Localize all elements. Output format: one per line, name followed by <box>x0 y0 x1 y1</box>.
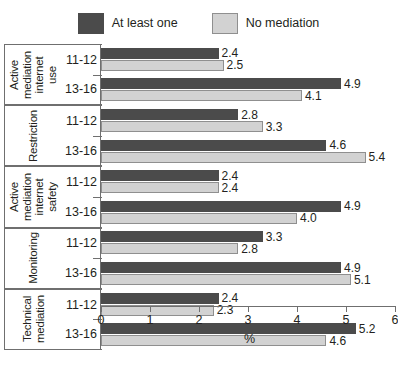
bar-no-mediation <box>101 213 297 224</box>
x-axis-tick <box>248 306 249 312</box>
group-age-labels: 11-1213-16 <box>61 229 102 288</box>
group-title: Restriction <box>5 106 61 165</box>
x-axis-tick-label: 1 <box>147 313 154 327</box>
bar-no-mediation <box>101 274 351 285</box>
age-label: 11-12 <box>61 106 102 136</box>
bars-area: 2.42.54.94.12.83.34.65.42.42.44.94.03.32… <box>101 44 397 350</box>
bar-row: 2.8 <box>101 109 397 120</box>
age-label: 11-12 <box>61 229 102 259</box>
bar-no-mediation <box>101 90 302 101</box>
bar-at-least-one <box>101 293 219 304</box>
x-axis-tick <box>297 306 298 312</box>
group-title: Activemediationinternetsafety <box>5 167 61 226</box>
group-title-text: Restriction <box>27 110 40 162</box>
x-axis-tick-label: 2 <box>196 313 203 327</box>
bar-at-least-one <box>101 170 219 181</box>
age-label: 13-16 <box>61 258 102 288</box>
group-title-text: Activemediationinternetsafety <box>8 173 58 221</box>
age-label: 11-12 <box>61 290 102 320</box>
group-label-panel: Activemediationinternetuse11-1213-16Rest… <box>4 44 101 350</box>
bar-at-least-one <box>101 201 341 212</box>
bar-row: 4.0 <box>101 213 397 224</box>
group-title-text: Monitoring <box>27 232 40 284</box>
bar-row: 2.5 <box>101 60 397 71</box>
age-label: 13-16 <box>61 197 102 227</box>
bar-value-label: 2.4 <box>219 181 239 195</box>
x-axis-tick-label: 0 <box>98 313 105 327</box>
group-age-labels: 11-1213-16 <box>61 45 102 104</box>
bar-at-least-one <box>101 48 219 59</box>
bar-value-label: 4.1 <box>302 89 322 103</box>
x-axis-tick <box>346 306 347 312</box>
x-axis-tick <box>150 306 151 312</box>
bar-no-mediation <box>101 182 219 193</box>
bar-row: 5.1 <box>101 274 397 285</box>
group-title-text: Activemediationinternetuse <box>8 51 58 99</box>
x-axis-tick-label: 3 <box>245 313 252 327</box>
group-title: Activemediationinternetuse <box>5 45 61 104</box>
x-axis-tick-label: 4 <box>294 313 301 327</box>
age-label: 13-16 <box>61 75 102 105</box>
group-label-monitoring: Monitoring11-1213-16 <box>5 228 102 289</box>
bar-value-label: 4.9 <box>341 199 361 213</box>
x-axis-tick-label: 6 <box>392 313 398 327</box>
bar-row: 4.9 <box>101 262 397 273</box>
legend-label-no-mediation: No mediation <box>246 17 320 30</box>
bar-value-label: 3.3 <box>263 230 283 244</box>
legend-item-at-least-one: At least one <box>78 13 178 34</box>
bar-value-label: 5.1 <box>351 273 371 287</box>
bar-value-label: 4.0 <box>297 211 317 225</box>
bar-value-label: 2.5 <box>224 58 244 72</box>
legend-label-at-least-one: At least one <box>112 17 178 30</box>
age-label: 11-12 <box>61 45 102 75</box>
bar-value-label: 3.3 <box>263 120 283 134</box>
bar-row: 5.4 <box>101 152 397 163</box>
group-title: Monitoring <box>5 229 61 288</box>
age-label: 13-16 <box>61 136 102 166</box>
group-age-labels: 11-1213-16 <box>61 106 102 165</box>
bar-row: 4.9 <box>101 78 397 89</box>
bar-value-label: 4.9 <box>341 77 361 91</box>
bar-at-least-one <box>101 262 341 273</box>
x-axis-tick-label: 5 <box>343 313 350 327</box>
bar-no-mediation <box>101 121 263 132</box>
bar-row: 4.1 <box>101 90 397 101</box>
bar-value-label: 4.6 <box>326 138 346 152</box>
bar-row: 2.8 <box>101 243 397 254</box>
bar-no-mediation <box>101 60 224 71</box>
legend-item-no-mediation: No mediation <box>212 13 320 34</box>
age-label: 11-12 <box>61 167 102 197</box>
plot-area: Activemediationinternetuse11-1213-16Rest… <box>0 44 397 350</box>
bar-value-label: 2.8 <box>238 242 258 256</box>
bar-value-label: 2.8 <box>238 108 258 122</box>
bar-value-label: 5.4 <box>366 150 386 164</box>
bar-row: 2.4 <box>101 170 397 181</box>
bar-no-mediation <box>101 152 366 163</box>
bar-at-least-one <box>101 231 263 242</box>
bar-at-least-one <box>101 109 238 120</box>
bar-row: 3.3 <box>101 231 397 242</box>
bar-row: 2.4 <box>101 48 397 59</box>
bar-no-mediation <box>101 243 238 254</box>
bar-at-least-one <box>101 140 326 151</box>
x-axis-label: % <box>0 332 397 346</box>
chart-legend: At least one No mediation <box>0 10 397 36</box>
bar-row: 2.4 <box>101 182 397 193</box>
legend-swatch-no-mediation <box>212 13 238 34</box>
legend-swatch-at-least-one <box>78 13 104 34</box>
x-axis-tick <box>395 306 396 312</box>
bar-row: 4.6 <box>101 140 397 151</box>
bar-row: 3.3 <box>101 121 397 132</box>
bar-row: 4.9 <box>101 201 397 212</box>
group-label-restriction: Restriction11-1213-16 <box>5 105 102 166</box>
group-label-active-mediation-internet-safety: Activemediationinternetsafety11-1213-16 <box>5 166 102 227</box>
group-age-labels: 11-1213-16 <box>61 167 102 226</box>
bar-at-least-one <box>101 78 341 89</box>
group-label-active-mediation-internet-use: Activemediationinternetuse11-1213-16 <box>5 44 102 105</box>
x-axis-tick <box>101 306 102 312</box>
bar-row: 2.4 <box>101 293 397 304</box>
x-axis-label-text: % <box>244 332 255 346</box>
x-axis-tick <box>199 306 200 312</box>
